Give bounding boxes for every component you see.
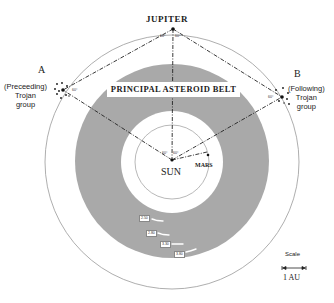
- angle-jupiter-left: 60°: [160, 34, 165, 38]
- trojan-a-line3: group: [4, 100, 47, 109]
- trojan-a-line2: Trojan: [4, 91, 47, 100]
- sun-point: [170, 158, 173, 161]
- angle-sun-left: 60°: [162, 151, 167, 155]
- scale-bar: [282, 266, 306, 270]
- kirkwood-gap-label: 2.50: [139, 215, 150, 222]
- trojan-b-line3: group: [288, 102, 325, 111]
- jupiter-point: [171, 27, 175, 31]
- trojan-a-line1: (Preceeding): [4, 82, 47, 91]
- angle-trojan-a: 60°: [72, 88, 77, 92]
- kirkwood-gap-label: 3.30: [160, 241, 171, 248]
- trojan-b-caption: (Following) Trojan group: [288, 84, 325, 111]
- trojan-b-line2: Trojan: [288, 93, 325, 102]
- mars-label: MARS: [195, 162, 213, 168]
- mars-point: [207, 154, 210, 157]
- trojan-b-line1: (Following): [288, 84, 325, 93]
- scale-title: Scale: [285, 251, 300, 257]
- sun-label: SUN: [161, 166, 181, 177]
- angle-trojan-b: 60°: [268, 95, 273, 99]
- trojan-a-letter: A: [38, 64, 45, 75]
- angle-sun-right: 60°: [173, 151, 178, 155]
- angle-jupiter-right: 60°: [175, 34, 180, 38]
- trojan-b-letter: B: [294, 68, 301, 79]
- principal-asteroid-belt-banner: PRINCIPAL ASTEROID BELT: [107, 82, 240, 97]
- jupiter-label: JUPITER: [146, 14, 188, 24]
- trojan-a-caption: (Preceeding) Trojan group: [4, 82, 47, 109]
- kirkwood-gap-label: 2.80: [146, 230, 157, 237]
- kirkwood-gap-label: 3.80: [174, 251, 185, 258]
- scale-unit: 1 AU: [283, 273, 300, 282]
